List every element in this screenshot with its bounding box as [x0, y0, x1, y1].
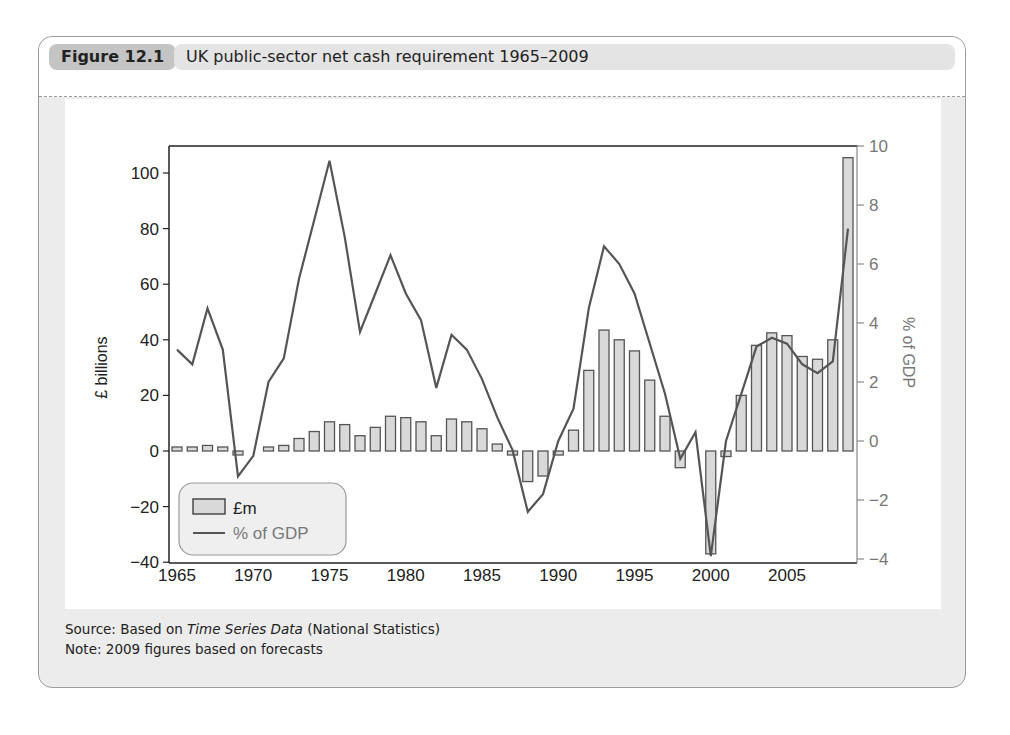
chart: −40−20020406080100−4−2024681019651970197…: [65, 99, 941, 609]
figure-title: UK public-sector net cash requirement 19…: [174, 44, 955, 70]
left-tick-label: 40: [140, 331, 159, 350]
bar: [203, 445, 213, 451]
right-tick-label: 4: [869, 314, 878, 333]
left-tick-label: 80: [140, 220, 159, 239]
left-tick-label: −20: [130, 498, 159, 517]
x-tick-label: 2000: [692, 566, 730, 585]
bar: [264, 447, 274, 451]
x-tick-label: 1970: [234, 566, 272, 585]
bar: [752, 345, 762, 451]
bar: [645, 380, 655, 451]
bar: [797, 356, 807, 451]
bar: [477, 429, 487, 451]
x-tick-label: 1980: [387, 566, 425, 585]
right-tick-label: 10: [869, 137, 888, 156]
right-tick-label: −4: [869, 550, 888, 569]
bar: [355, 436, 365, 451]
left-tick-label: −40: [130, 553, 159, 572]
bar: [584, 370, 594, 451]
legend-label-line: % of GDP: [233, 524, 309, 543]
left-tick-label: 20: [140, 386, 159, 405]
legend-box: [179, 483, 346, 555]
figure-header: Figure 12.1 UK public-sector net cash re…: [39, 37, 965, 97]
bar: [523, 451, 533, 482]
right-tick-label: −2: [869, 491, 888, 510]
bar: [340, 425, 350, 451]
bar: [401, 418, 411, 451]
bar: [660, 416, 670, 451]
bar: [492, 444, 502, 451]
left-axis-title: £ billions: [93, 336, 110, 398]
figure-panel: Figure 12.1 UK public-sector net cash re…: [38, 36, 966, 688]
bar: [447, 419, 457, 451]
bar: [172, 447, 182, 451]
bar: [614, 340, 624, 451]
right-axis-title: % of GDP: [900, 317, 917, 388]
x-tick-label: 1990: [539, 566, 577, 585]
right-tick-label: 6: [869, 255, 878, 274]
x-tick-label: 1985: [463, 566, 501, 585]
x-tick-label: 1975: [311, 566, 349, 585]
bar: [569, 430, 579, 451]
bar: [325, 422, 335, 451]
note-line: Note: 2009 figures based on forecasts: [65, 639, 440, 659]
left-tick-label: 60: [140, 275, 159, 294]
bar: [706, 451, 716, 554]
bar: [218, 447, 228, 451]
bar: [767, 333, 777, 451]
bar: [431, 436, 441, 451]
bar: [187, 447, 197, 451]
bar: [370, 427, 380, 451]
bar: [416, 422, 426, 451]
bar: [386, 416, 396, 451]
bar: [843, 158, 853, 451]
bar: [630, 351, 640, 451]
left-tick-label: 0: [150, 442, 159, 461]
figure-footer: Source: Based on Time Series Data (Natio…: [65, 619, 440, 659]
bar: [599, 330, 609, 451]
figure-label: Figure 12.1: [49, 44, 176, 70]
bar: [279, 445, 289, 451]
left-tick-label: 100: [131, 164, 159, 183]
bar: [462, 422, 472, 451]
x-tick-label: 2005: [768, 566, 806, 585]
legend-bar-swatch: [193, 499, 225, 514]
right-tick-label: 8: [869, 196, 878, 215]
bar: [782, 336, 792, 451]
bar: [721, 451, 731, 457]
source-line: Source: Based on Time Series Data (Natio…: [65, 619, 440, 639]
bar: [309, 432, 319, 451]
bar: [294, 438, 304, 451]
chart-area: −40−20020406080100−4−2024681019651970197…: [65, 99, 941, 609]
x-tick-label: 1995: [616, 566, 654, 585]
legend-label-bars: £m: [233, 499, 257, 518]
right-tick-label: 2: [869, 373, 878, 392]
bar: [538, 451, 548, 476]
right-tick-label: 0: [869, 432, 878, 451]
x-tick-label: 1965: [158, 566, 196, 585]
